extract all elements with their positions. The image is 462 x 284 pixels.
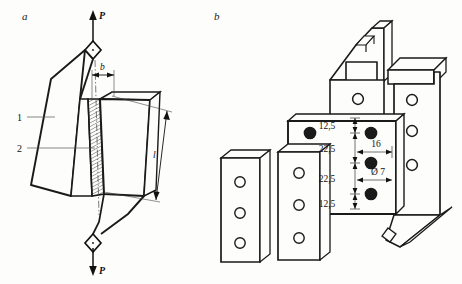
- hole: [235, 238, 245, 248]
- plate-detached-left: [221, 150, 270, 262]
- dimension-edge-top: 12,5: [319, 121, 336, 131]
- engineering-drawing-canvas: a P: [0, 0, 462, 284]
- hole: [235, 177, 245, 187]
- callout-label-1: 1: [17, 112, 22, 123]
- hole: [365, 127, 376, 138]
- hole: [294, 168, 304, 178]
- dimension-pitch-lower: 22,5: [319, 174, 336, 184]
- dimension-b-label: b: [100, 62, 105, 72]
- dimension-l-label: l: [153, 150, 156, 160]
- load-label-top: P: [99, 10, 106, 21]
- hole: [304, 127, 315, 138]
- hole: [365, 188, 376, 199]
- hole: [294, 233, 304, 243]
- callout-label-2: 2: [17, 143, 22, 154]
- technical-figure: a P: [0, 0, 462, 284]
- hole: [294, 200, 304, 210]
- hole: [407, 95, 418, 106]
- panel-a-label: a: [22, 10, 28, 22]
- hole: [353, 94, 364, 105]
- hole: [407, 160, 418, 171]
- load-label-bottom: P: [99, 265, 106, 276]
- dimension-offset-16: 16: [371, 139, 381, 149]
- dimension-pitch-upper: 22,5: [319, 144, 336, 154]
- hole: [235, 208, 245, 218]
- hole: [407, 126, 418, 137]
- dimension-hole-diameter: Ø 7: [371, 167, 385, 177]
- panel-b-label: b: [214, 10, 220, 22]
- dimension-edge-bottom: 12,5: [319, 199, 336, 209]
